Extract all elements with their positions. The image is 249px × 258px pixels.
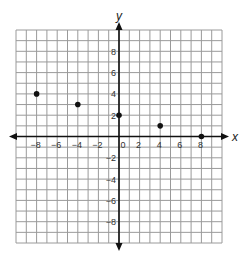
y-tick-label: −8 (106, 217, 116, 227)
x-tick-label: 8 (198, 140, 203, 150)
y-axis-arrow-up-icon (116, 22, 123, 30)
x-axis-arrow-left-icon (9, 133, 17, 140)
x-axis-label: x (231, 130, 239, 144)
data-point (75, 102, 81, 108)
y-tick-label: 6 (111, 68, 116, 78)
x-axis-arrow-right-icon (221, 133, 229, 140)
data-point (199, 134, 205, 140)
coordinate-plane: −8−6−4−202468−8−6−4−22468 x y (0, 0, 249, 258)
x-tick-label: 0 (120, 140, 125, 150)
y-tick-label: 4 (111, 89, 116, 99)
y-axis-label: y (115, 9, 123, 23)
x-tick-label: −4 (72, 140, 82, 150)
x-tick-label: −6 (51, 140, 61, 150)
y-tick-label: −2 (106, 153, 116, 163)
data-point (157, 123, 163, 129)
data-point (116, 112, 122, 118)
y-tick-label: 2 (111, 111, 116, 121)
x-tick-label: −8 (30, 140, 40, 150)
y-axis-arrow-down-icon (116, 243, 123, 251)
x-tick-label: 2 (136, 140, 141, 150)
y-tick-label: −6 (106, 196, 116, 206)
data-point (34, 91, 40, 97)
axes (9, 22, 229, 251)
y-tick-label: 8 (111, 47, 116, 57)
x-tick-label: −2 (92, 140, 102, 150)
x-tick-label: 6 (177, 140, 182, 150)
x-tick-label: 4 (157, 140, 162, 150)
y-tick-label: −4 (106, 175, 116, 185)
